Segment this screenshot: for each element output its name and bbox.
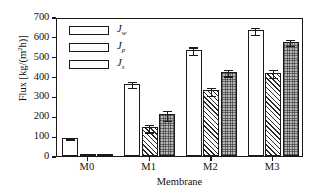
legend: JwJpJs	[69, 23, 126, 74]
error-bar-cap-top	[145, 125, 154, 126]
bar-m2-j_w	[186, 50, 202, 156]
x-axis-tick-label-m1: M1	[129, 161, 169, 172]
error-bar-cap-top	[251, 28, 260, 29]
legend-label-j_p: Jp	[117, 40, 125, 54]
bar-m2-j_s	[221, 72, 237, 156]
error-bar-cap-top	[189, 47, 198, 48]
error-bar-cap-bottom	[101, 155, 110, 156]
legend-swatch-j_p	[69, 43, 109, 52]
legend-item-j_s: Js	[69, 57, 126, 71]
bar-m3-j_p	[265, 73, 281, 156]
x-axis-title: Membrane	[56, 176, 303, 187]
error-bar-cap-bottom	[207, 96, 216, 97]
legend-item-j_w: Jw	[69, 23, 126, 37]
error-bar-cap-top	[163, 111, 172, 112]
chart-figure: Flux [kg/(m2h)] 0100200300400500600700 J…	[0, 0, 320, 193]
bar-m1-j_w	[124, 84, 140, 156]
error-bar-cap-bottom	[145, 132, 154, 133]
error-bar-cap-top	[286, 40, 295, 41]
error-bar-cap-bottom	[269, 78, 278, 79]
x-axis-tick-label-m3: M3	[252, 161, 292, 172]
x-axis-tick-label-m0: M0	[67, 161, 107, 172]
error-bar-cap-bottom	[66, 140, 75, 141]
error-bar-cap-bottom	[286, 46, 295, 47]
legend-item-j_p: Jp	[69, 40, 126, 54]
error-bar-cap-top	[128, 82, 137, 83]
y-axis-tick-label: 200	[34, 110, 49, 121]
error-bar-cap-bottom	[189, 55, 198, 56]
y-axis-tick-label: 0	[44, 150, 49, 161]
bar-m3-j_s	[283, 42, 299, 156]
error-bar-cap-top	[224, 70, 233, 71]
bar-m3-j_w	[248, 30, 264, 156]
error-bar-cap-bottom	[251, 35, 260, 36]
y-axis-tick-label: 600	[34, 31, 49, 42]
y-axis-tick-label: 300	[34, 90, 49, 101]
y-axis-tick-label: 100	[34, 130, 49, 141]
legend-label-j_s: Js	[117, 57, 124, 71]
error-bar-cap-bottom	[224, 76, 233, 77]
error-bar-cap-bottom	[163, 121, 172, 122]
legend-label-subscript: s	[122, 63, 125, 71]
error-bar-cap-top	[269, 70, 278, 71]
bar-m2-j_p	[203, 90, 219, 156]
x-axis-tick-label-m2: M2	[190, 161, 230, 172]
legend-swatch-j_w	[69, 26, 109, 35]
y-axis: 0100200300400500600700	[0, 0, 56, 193]
y-axis-tick-label: 500	[34, 51, 49, 62]
legend-label-subscript: p	[122, 46, 126, 54]
y-axis-tick-label: 400	[34, 71, 49, 82]
legend-label-subscript: w	[122, 29, 127, 37]
plot-area: JwJpJs	[56, 18, 303, 157]
legend-swatch-j_s	[69, 60, 109, 69]
error-bar-cap-top	[207, 88, 216, 89]
error-bar-cap-bottom	[128, 88, 137, 89]
legend-label-j_w: Jw	[117, 23, 126, 37]
y-axis-tick-label: 700	[34, 11, 49, 22]
